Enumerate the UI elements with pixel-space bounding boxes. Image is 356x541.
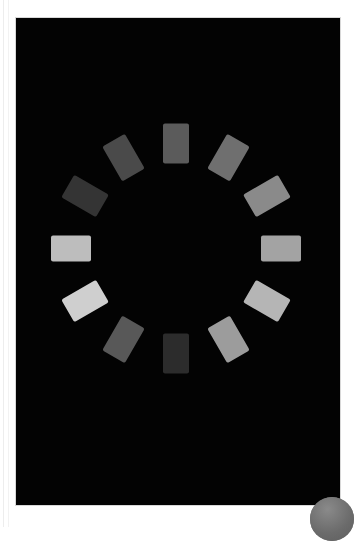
spinner-segment-bar <box>243 174 291 217</box>
spinner-segment-bar <box>243 279 291 322</box>
spinner-segment-bar <box>207 133 250 181</box>
spinner-segment-bar <box>163 123 189 163</box>
page-edge-rule-left <box>3 0 4 527</box>
spinner-segment-bar <box>61 174 109 217</box>
spinner-segment-bar <box>51 235 91 261</box>
spinner-segment-bar <box>61 279 109 322</box>
media-viewer-panel[interactable] <box>16 18 340 505</box>
corner-badge-shading <box>310 497 354 541</box>
spinner-segment-bar <box>207 315 250 363</box>
loading-spinner-icon <box>51 123 301 373</box>
spinner-segment-bar <box>163 333 189 373</box>
spinner-segment-bar <box>261 235 301 261</box>
spinner-segment-bar <box>102 133 145 181</box>
spinner-segment-bar <box>102 315 145 363</box>
page-edge-rule-left-secondary <box>8 0 9 527</box>
